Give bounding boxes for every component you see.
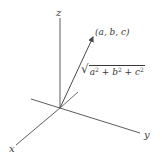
sqrt-symbol: √ [81, 63, 89, 75]
x-axis [16, 108, 60, 145]
plus-2: + [122, 67, 135, 77]
diagram-canvas [0, 0, 162, 162]
magnitude-label: √ a2 + b2 + c2 [81, 64, 145, 77]
radicand: a2 + b2 + c2 [89, 65, 145, 77]
plus-1: + [99, 67, 112, 77]
y-axis-label: y [144, 130, 150, 140]
x-axis-label: x [9, 144, 15, 154]
z-axis-label: z [56, 8, 61, 18]
point-label: (a, b, c) [95, 28, 130, 37]
projection-line [60, 92, 78, 108]
exp-c: 2 [140, 66, 144, 73]
y-axis [31, 99, 140, 133]
